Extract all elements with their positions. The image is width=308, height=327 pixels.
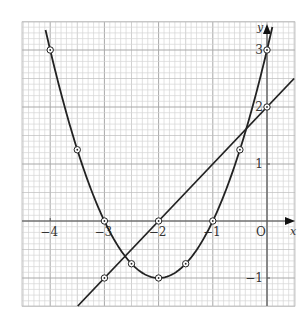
x-tick-label: −2 [149, 225, 167, 239]
y-axis-label: y [256, 21, 264, 34]
x-tick-label: O [256, 225, 266, 239]
chart-plot: −4−3−2−1O321−1xy [0, 0, 308, 327]
y-tick-label: 3 [255, 43, 263, 57]
grid [22, 22, 295, 307]
x-tick-label: −4 [40, 225, 58, 239]
x-axis-label: x [290, 225, 297, 238]
y-tick-label: −1 [245, 271, 263, 285]
y-tick-label: 1 [255, 157, 263, 171]
